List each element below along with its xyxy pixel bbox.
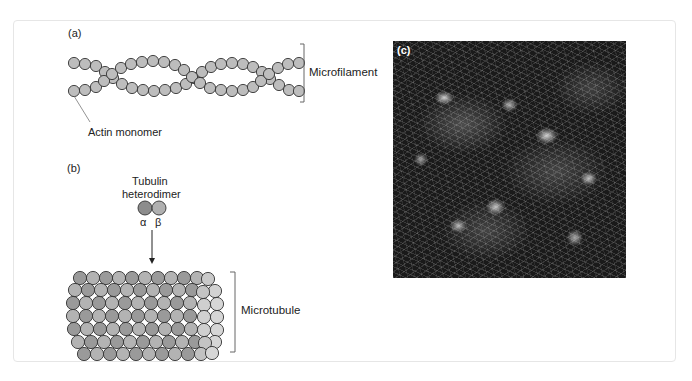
microtubule-bracket — [230, 272, 235, 352]
beta-tubulin — [152, 201, 166, 215]
microtubule-label: Microtubule — [241, 304, 300, 316]
assembly-arrow-head — [149, 258, 155, 264]
microtubule-lattice — [66, 271, 223, 360]
beta-label: β — [155, 216, 161, 228]
actin-monomer-label: Actin monomer — [88, 126, 162, 138]
microfilament-label: Microfilament — [309, 66, 377, 78]
actin-strand-2 — [68, 55, 304, 96]
tubulin-title-line1: Tubulin — [132, 175, 168, 187]
tubulin-title-line2: heterodimer — [122, 188, 181, 200]
actin-filament — [68, 55, 304, 96]
alpha-tubulin — [138, 201, 152, 215]
cytoskeleton-micrograph: (c) — [393, 41, 626, 278]
actin-monomer-leader — [74, 96, 90, 122]
panel-c-letter: (c) — [397, 44, 410, 56]
alpha-label: α — [140, 216, 146, 228]
panel-b-letter: (b) — [67, 162, 80, 174]
